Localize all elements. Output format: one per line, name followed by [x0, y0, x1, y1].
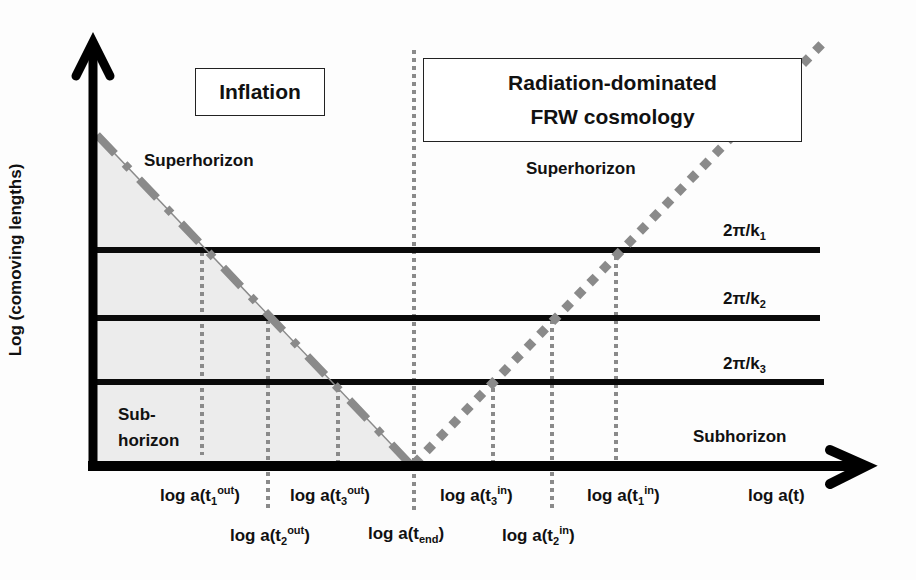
- subhorizon-left-line2: horizon: [118, 428, 179, 454]
- radiation-title-line1: Radiation-dominated: [508, 66, 717, 100]
- subhorizon-left-line1: Sub-: [118, 402, 179, 428]
- superhorizon-right-label: Superhorizon: [526, 160, 636, 177]
- wavelength-label-k3: 2π/k3: [723, 355, 766, 375]
- tick-t2-out: log a(t2out): [230, 525, 310, 547]
- inflation-title: Inflation: [219, 80, 301, 104]
- tick-t3-in: log a(t3in): [440, 485, 513, 507]
- tick-t2-in: log a(t2in): [502, 525, 575, 547]
- radiation-title-line2: FRW cosmology: [530, 100, 694, 134]
- wavelength-label-k1: 2π/k1: [723, 222, 766, 242]
- tick-t1-in: log a(t1in): [587, 485, 660, 507]
- tick-t3-out: log a(t3out): [290, 485, 370, 507]
- x-axis-label: log a(t): [748, 487, 805, 504]
- inflation-title-box: Inflation: [195, 68, 325, 116]
- horizon-crossing-diagram: Inflation Radiation-dominated FRW cosmol…: [0, 0, 916, 580]
- radiation-title-box: Radiation-dominated FRW cosmology: [423, 58, 802, 142]
- tick-t-end: log a(tend): [368, 525, 444, 545]
- subhorizon-right-label: Subhorizon: [693, 428, 786, 445]
- y-axis-label: Log (comoving lengths): [6, 164, 26, 357]
- wavelength-label-k2: 2π/k2: [723, 290, 766, 310]
- superhorizon-left-label: Superhorizon: [144, 152, 254, 169]
- subhorizon-left-label: Sub- horizon: [118, 402, 179, 453]
- tick-t1-out: log a(t1out): [160, 485, 240, 507]
